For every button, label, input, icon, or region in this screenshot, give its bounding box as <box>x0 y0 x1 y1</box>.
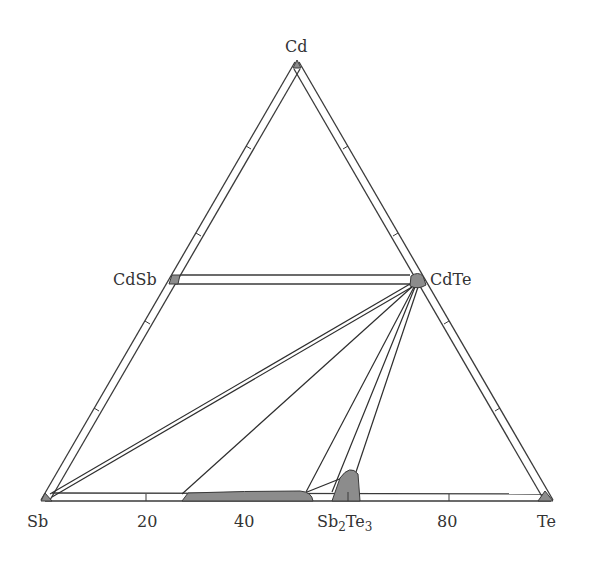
compound-label-sb2te3: Sb2Te3 <box>317 512 372 534</box>
tie-strip-cdsb-cdte <box>175 275 410 284</box>
sb2te3-part-sb: Sb <box>317 512 338 531</box>
axis-tick-label-80: 80 <box>437 512 457 531</box>
tie-lines-cdte-fan <box>182 286 418 494</box>
compound-label-cdte: CdTe <box>430 270 471 289</box>
vertex-label-cd: Cd <box>285 37 307 56</box>
sb2te3-sub-2: 2 <box>338 520 346 534</box>
axis-tick-label-40: 40 <box>234 512 254 531</box>
vertex-label-te: Te <box>537 512 556 531</box>
sb2te3-part-te: Te <box>346 512 365 531</box>
sb2te3-phase-region <box>332 470 360 501</box>
compound-label-cdsb: CdSb <box>113 270 157 289</box>
solid-solution-region-sbte <box>182 491 313 501</box>
sb2te3-sub-3: 3 <box>365 520 373 534</box>
ternary-phase-diagram: Cd Sb Te CdSb CdTe Sb2Te3 20 40 80 <box>0 0 594 563</box>
vertex-label-sb: Sb <box>27 512 48 531</box>
axis-tick-label-20: 20 <box>137 512 157 531</box>
